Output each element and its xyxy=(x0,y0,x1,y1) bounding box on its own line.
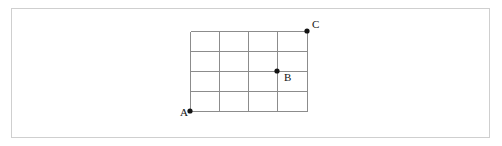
vertex-dot-c xyxy=(304,28,309,33)
vertex-label-c: C xyxy=(312,18,319,30)
vertex-dot-b xyxy=(274,68,279,73)
vertex-label-a: A xyxy=(180,106,188,118)
vertex-dot-a xyxy=(187,108,192,113)
grid-diagram: ABC xyxy=(0,0,502,146)
vertex-label-b: B xyxy=(284,71,291,83)
figure-root: ABC xyxy=(0,0,502,146)
grid-svg-canvas: ABC xyxy=(0,0,502,146)
grid-vertex-points: ABC xyxy=(180,18,319,118)
